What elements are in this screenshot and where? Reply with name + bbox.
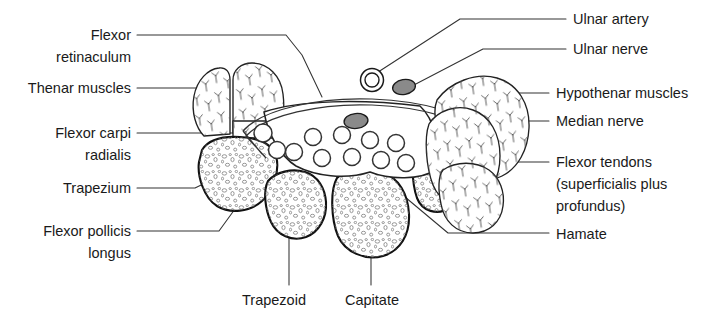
label-flexor-tendons-line1: Flexor tendons	[556, 154, 652, 170]
flexor-carpi-radialis-tendon	[254, 124, 272, 142]
label-flexor-tendons-line3: profundus)	[556, 198, 625, 214]
trapezoid-bone	[265, 170, 326, 238]
label-median-nerve: Median nerve	[556, 113, 644, 129]
flexor-tendon-circle	[286, 144, 303, 161]
flexor-tendon-circle	[373, 152, 390, 169]
label-capitate: Capitate	[345, 292, 399, 308]
label-flexor-pollicis-longus-line1: Flexor pollicis	[43, 223, 131, 239]
label-flexor-tendons-line2: (superficialis plus	[556, 176, 667, 192]
label-ulnar-artery: Ulnar artery	[573, 11, 649, 27]
label-trapezium: Trapezium	[63, 180, 131, 196]
label-flexor-carpi-radialis-line1: Flexor carpi	[55, 125, 131, 141]
flexor-tendon-circle	[334, 127, 351, 144]
ulnar-nerve-oval	[391, 78, 416, 97]
flexor-tendon-circle	[362, 132, 379, 149]
thenar-muscle-lateral-hatch	[193, 68, 230, 136]
flexor-pollicis-longus-tendon	[269, 142, 286, 159]
flexor-tendon-circle	[398, 155, 415, 172]
flexor-tendon-circle	[388, 135, 405, 152]
carpal-tunnel-cross-section-figure: Flexor retinaculum Thenar muscles Flexor…	[0, 0, 704, 320]
label-flexor-retinaculum-line2: retinaculum	[56, 49, 131, 65]
capitate-bone	[332, 169, 409, 258]
ulnar-artery-lumen	[365, 73, 379, 87]
leader-ulnar-artery	[372, 19, 566, 76]
label-hamate: Hamate	[556, 226, 607, 242]
label-flexor-carpi-radialis-line2: radialis	[85, 147, 131, 163]
label-flexor-pollicis-longus-line2: longus	[88, 245, 131, 261]
label-flexor-retinaculum-line1: Flexor	[91, 27, 131, 43]
label-ulnar-nerve: Ulnar nerve	[573, 41, 648, 57]
flexor-tendon-circle	[305, 129, 322, 146]
label-hypothenar-muscles: Hypothenar muscles	[556, 85, 688, 101]
label-thenar-muscles: Thenar muscles	[28, 80, 131, 96]
label-trapezoid: Trapezoid	[242, 292, 306, 308]
flexor-tendon-circle	[314, 150, 331, 167]
flexor-tendon-circle	[344, 149, 361, 166]
hypothenar-muscles-group	[426, 76, 529, 233]
anatomy-diagram-svg: Flexor retinaculum Thenar muscles Flexor…	[0, 0, 704, 320]
